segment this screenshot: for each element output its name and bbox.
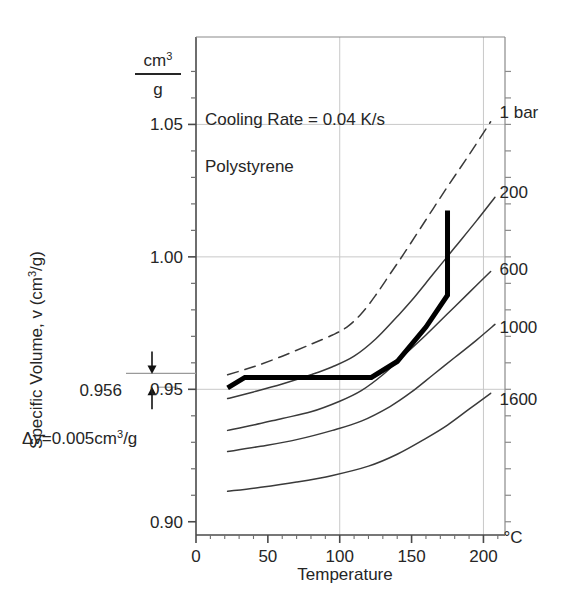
y-axis-title: Specific Volume, v (cm3/g) <box>26 251 46 449</box>
y-tick-label: 0.95 <box>150 380 183 399</box>
y-axis-title-main: Specific Volume, v (cm <box>27 277 46 449</box>
delta-v-upper-value-label: 0.956 <box>79 381 122 400</box>
unit-numerator-superscript: 3 <box>166 50 172 62</box>
curve-label-600: 600 <box>500 260 528 279</box>
unit-numerator: cm <box>144 51 167 70</box>
curve-label-1-bar: 1 bar <box>500 103 539 122</box>
specific-volume-vs-temperature-chart: 050100150200 1.051.000.950.90 1 bar20060… <box>0 0 577 616</box>
y-axis-title-group: Specific Volume, v (cm3/g) <box>26 251 46 449</box>
curve-label-1600: 1600 <box>500 390 538 409</box>
x-tick-label: 150 <box>397 547 425 566</box>
figure-background <box>0 0 577 616</box>
chart-figure: 050100150200 1.051.000.950.90 1 bar20060… <box>0 0 577 616</box>
delta-v-suffix: /g <box>123 429 137 448</box>
delta-v-prefix: Δv=0.005cm <box>22 429 117 448</box>
y-tick-label: 0.90 <box>150 513 183 532</box>
x-axis-title: Temperature <box>297 565 392 584</box>
x-tick-label: 50 <box>258 547 277 566</box>
x-tick-label: 200 <box>469 547 497 566</box>
x-tick-label: 0 <box>191 547 200 566</box>
y-tick-label: 1.00 <box>150 248 183 267</box>
x-tick-label: 100 <box>326 547 354 566</box>
curve-label-200: 200 <box>500 183 528 202</box>
x-axis-unit-label: °C <box>503 528 522 547</box>
y-axis-title-tail: /g) <box>27 251 46 271</box>
curve-label-1000: 1000 <box>500 318 538 337</box>
cooling-rate-annotation: Cooling Rate = 0.04 K/s <box>205 110 385 129</box>
unit-denominator: g <box>153 80 162 99</box>
material-annotation: Polystyrene <box>205 157 294 176</box>
y-tick-label: 1.05 <box>150 115 183 134</box>
